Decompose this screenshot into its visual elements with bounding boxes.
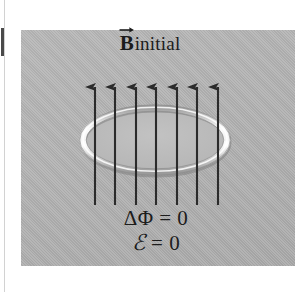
emf-symbol: ℰ <box>132 230 146 255</box>
flux-equation: ΔΦ = 0 <box>0 208 300 229</box>
emf-value: 0 <box>169 231 180 255</box>
field-label: B initial <box>0 33 300 54</box>
field-label-qualifier: initial <box>135 33 181 54</box>
emf-equation: ℰ = 0 <box>0 232 300 254</box>
emf-operator: = <box>151 231 163 255</box>
figure-root: B initial ΔΦ = 0 ℰ = 0 <box>0 0 300 292</box>
b-vector-letter: B <box>120 31 134 55</box>
b-vector-symbol: B <box>120 33 135 54</box>
vector-arrow-accent <box>119 24 134 33</box>
